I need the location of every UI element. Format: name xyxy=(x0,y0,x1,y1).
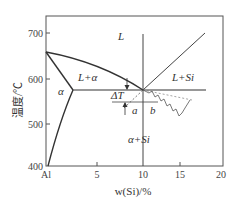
y-tick-600: 600 xyxy=(28,74,43,85)
region-label-alpha: α xyxy=(58,85,64,97)
x-tick-20: 20 xyxy=(216,169,226,180)
phase-diagram: 700 600 500 400 温度/℃ Al 5 10 15 20 w(Si)… xyxy=(0,0,238,209)
x-tick-5: 5 xyxy=(95,169,100,180)
x-tick-15: 15 xyxy=(175,169,185,180)
arrow-up-head-icon xyxy=(123,102,128,107)
region-label-l-alpha: L+α xyxy=(77,71,98,83)
y-tick-500: 500 xyxy=(28,119,43,130)
x-axis-label: w(Si)/% xyxy=(115,185,152,198)
point-a-label: a xyxy=(132,104,138,116)
y-axis-label: 温度/℃ xyxy=(11,82,24,118)
region-label-l: L xyxy=(117,30,124,42)
delta-t-label: ΔT xyxy=(110,89,124,101)
y-tick-700: 700 xyxy=(28,28,43,39)
point-b-label: b xyxy=(150,104,156,116)
solvus-line xyxy=(48,90,73,166)
x-tick-10: 10 xyxy=(138,169,148,180)
x-axis xyxy=(97,162,180,166)
x-tick-al: Al xyxy=(41,169,51,180)
region-label-l-si: L+Si xyxy=(171,71,194,83)
region-label-alpha-si: α+Si xyxy=(128,133,150,145)
arrow-down-head-icon xyxy=(125,85,130,90)
y-axis xyxy=(46,33,50,124)
coupled-zone-boundary xyxy=(143,90,192,100)
